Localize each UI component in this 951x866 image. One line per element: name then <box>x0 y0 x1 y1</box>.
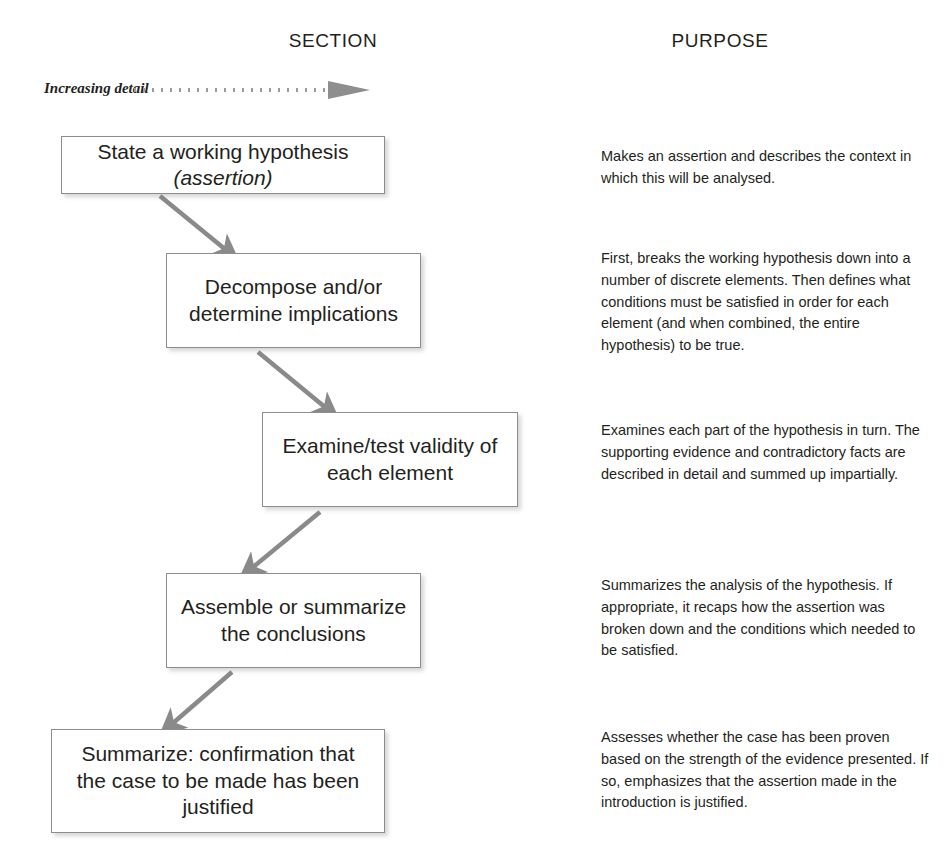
flow-box-assemble-conclusions[interactable]: Assemble or summarize the conclusions <box>166 573 421 668</box>
flow-box-examine-validity[interactable]: Examine/test validity of each element <box>262 412 518 507</box>
diagram-canvas: SECTION PURPOSE Increasing detail <box>0 0 951 866</box>
purpose-text-4: Summarizes the analysis of the hypothesi… <box>601 575 931 662</box>
flow-box-line3: justified <box>182 795 253 818</box>
flow-box-line1: Examine/test validity of <box>283 434 498 457</box>
purpose-text-2: First, breaks the working hypothesis dow… <box>601 248 931 357</box>
column-header-purpose: PURPOSE <box>640 30 800 52</box>
flow-box-line1: State a working hypothesis <box>98 140 349 163</box>
flow-box-line2: the conclusions <box>221 622 366 645</box>
flow-box-state-hypothesis[interactable]: State a working hypothesis (assertion) <box>61 136 385 194</box>
flow-box-line1: Decompose and/or <box>205 275 382 298</box>
flow-box-line2: determine implications <box>189 302 398 325</box>
connector-arrow-4-5 <box>172 672 232 724</box>
flow-box-line1: Assemble or summarize <box>181 595 406 618</box>
flow-box-line2: each element <box>327 461 453 484</box>
flow-box-text: State a working hypothesis (assertion) <box>88 139 359 192</box>
column-header-section: SECTION <box>253 30 413 52</box>
connector-arrow-2-3 <box>258 352 326 408</box>
flow-box-line2: (assertion) <box>98 165 349 191</box>
flow-box-line1: Summarize: confirmation that <box>81 742 354 765</box>
flow-box-decompose[interactable]: Decompose and/or determine implications <box>166 253 421 348</box>
flow-box-line2: the case to be made has been <box>77 769 360 792</box>
flow-box-summarize-justified[interactable]: Summarize: confirmation that the case to… <box>51 729 385 833</box>
purpose-text-3: Examines each part of the hypothesis in … <box>601 420 931 485</box>
purpose-text-1: Makes an assertion and describes the con… <box>601 146 931 190</box>
purpose-text-5: Assesses whether the case has been prove… <box>601 727 931 814</box>
dotted-arrow-right-icon <box>132 78 372 102</box>
connector-arrow-1-2 <box>160 196 226 250</box>
connector-arrow-3-4 <box>252 512 320 568</box>
flow-box-text: Summarize: confirmation that the case to… <box>67 741 370 820</box>
flow-box-text: Assemble or summarize the conclusions <box>171 594 416 647</box>
flow-box-text: Examine/test validity of each element <box>273 433 508 486</box>
flow-box-text: Decompose and/or determine implications <box>179 274 408 327</box>
